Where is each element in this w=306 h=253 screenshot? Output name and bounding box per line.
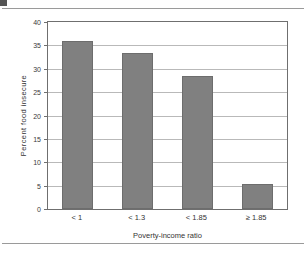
y-tick [44, 22, 48, 23]
y-tick [44, 45, 48, 46]
y-tick [44, 92, 48, 93]
bar [242, 184, 273, 209]
figure-rule-bottom [2, 243, 304, 244]
figure-container: 0510152025303540 < 1< 1.3< 1.85≥ 1.85 Po… [0, 0, 306, 253]
y-tick-label: 40 [33, 19, 41, 26]
y-tick [44, 162, 48, 163]
x-axis-title: Poverty-income ratio [47, 231, 288, 240]
x-tick-label: < 1.85 [186, 214, 207, 222]
y-tick-label: 5 [37, 182, 41, 189]
y-tick-label: 15 [33, 135, 41, 142]
y-tick-label: 30 [33, 65, 41, 72]
y-tick-label: 10 [33, 159, 41, 166]
y-tick [44, 116, 48, 117]
y-tick-label: 0 [37, 206, 41, 213]
y-tick-label: 20 [33, 112, 41, 119]
plot-area: 0510152025303540 [47, 21, 288, 210]
y-tick [44, 139, 48, 140]
x-tick-label: ≥ 1.85 [246, 214, 267, 222]
y-tick-label: 35 [33, 42, 41, 49]
figure-rule-top [2, 8, 304, 9]
y-tick [44, 186, 48, 187]
x-tick-label: < 1 [72, 214, 83, 222]
corner-mark [0, 0, 7, 6]
x-tick-label: < 1.3 [128, 214, 145, 222]
y-tick [44, 69, 48, 70]
y-tick [44, 209, 48, 210]
bar [122, 53, 153, 209]
y-axis-title: Percent food insecure [17, 21, 30, 210]
bar [182, 76, 213, 209]
bar [62, 41, 93, 209]
y-tick-label: 25 [33, 89, 41, 96]
